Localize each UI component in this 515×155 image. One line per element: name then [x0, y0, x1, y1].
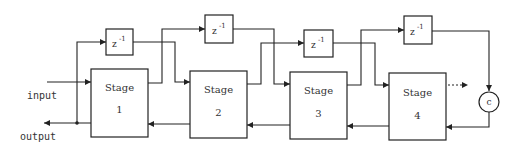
delay-4-base: z — [410, 27, 415, 37]
stage-4-title: Stage — [403, 87, 432, 98]
junction-dot — [75, 121, 79, 125]
delay-1-exponent: -1 — [119, 35, 126, 43]
delay-4-block: z -1 — [404, 16, 432, 44]
stage-3-block: Stage 3 — [290, 72, 347, 139]
multiplier-to-stage4 — [446, 112, 489, 127]
stage-2-block: Stage 2 — [190, 71, 247, 138]
delay-1-base: z — [112, 39, 117, 49]
stage-1-block: Stage 1 — [91, 69, 148, 137]
multiplier-label: c — [486, 97, 491, 107]
stage-3-number: 3 — [315, 108, 321, 119]
input-label: input — [27, 90, 57, 101]
delay-3-exponent: -1 — [318, 36, 325, 44]
multiplier-node: c — [479, 92, 499, 112]
delay-1-block: z -1 — [106, 29, 133, 55]
stage-1-title: Stage — [105, 82, 134, 93]
delay-4-exponent: -1 — [417, 23, 424, 31]
delay-3-base: z — [311, 40, 316, 50]
delay-2-base: z — [212, 26, 217, 36]
delay-3-block: z -1 — [304, 30, 333, 57]
lattice-filter-diagram: Stage 1 Stage 2 Stage 3 Stage 4 z -1 z -… — [0, 0, 515, 155]
output-label: output — [20, 131, 56, 142]
stage-3-title: Stage — [304, 85, 333, 96]
stage-4-number: 4 — [414, 110, 420, 121]
stage-1-number: 1 — [116, 104, 122, 115]
stage-2-number: 2 — [215, 107, 221, 118]
delay-2-exponent: -1 — [219, 22, 226, 30]
stage-2-title: Stage — [204, 84, 233, 95]
stage-4-block: Stage 4 — [389, 73, 446, 140]
delay-2-block: z -1 — [205, 15, 233, 43]
